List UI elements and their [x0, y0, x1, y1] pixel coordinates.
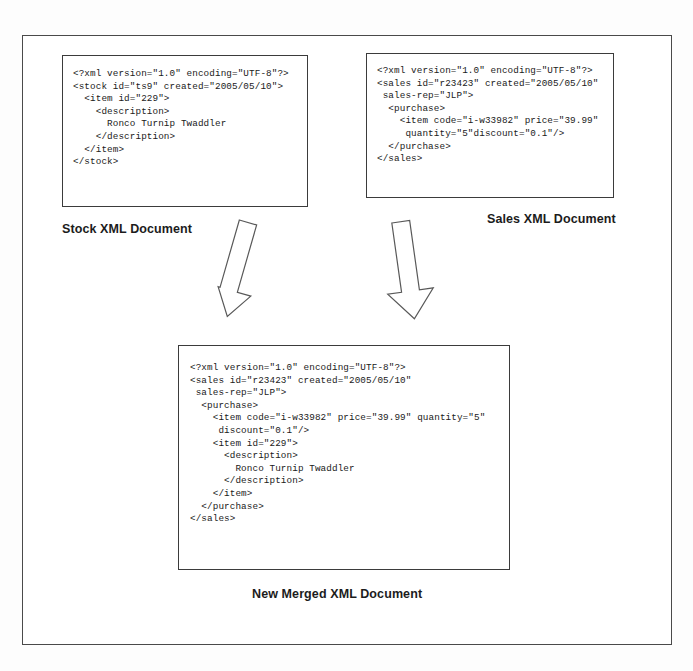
stock-xml-document-box: <?xml version="1.0" encoding="UTF-8"?> <…: [62, 55, 308, 207]
merged-xml-code: <?xml version="1.0" encoding="UTF-8"?> <…: [179, 346, 509, 526]
diagram-canvas: <?xml version="1.0" encoding="UTF-8"?> <…: [0, 0, 693, 671]
sales-xml-document-caption: Sales XML Document: [487, 212, 616, 226]
merge-arrow-right-icon: [358, 218, 438, 328]
sales-xml-code: <?xml version="1.0" encoding="UTF-8"?> <…: [367, 54, 613, 166]
merged-xml-document-caption: New Merged XML Document: [252, 587, 422, 601]
stock-xml-code: <?xml version="1.0" encoding="UTF-8"?> <…: [63, 56, 307, 169]
merged-xml-document-box: <?xml version="1.0" encoding="UTF-8"?> <…: [178, 345, 510, 570]
stock-xml-document-caption: Stock XML Document: [62, 222, 192, 236]
sales-xml-document-box: <?xml version="1.0" encoding="UTF-8"?> <…: [366, 53, 614, 198]
merge-arrow-left-icon: [228, 222, 308, 332]
